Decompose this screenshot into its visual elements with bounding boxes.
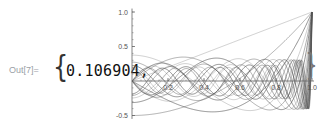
x-tick-label: 0.2 bbox=[163, 84, 173, 91]
x-tick-label: 0.4 bbox=[199, 84, 209, 91]
list-close-brace: } bbox=[306, 50, 317, 80]
y-tick-label: -0.5 bbox=[116, 112, 128, 119]
x-tick-label: 0.6 bbox=[235, 84, 245, 91]
legendre-plot: 0.20.40.60.81.0-0.50.51.0 bbox=[0, 0, 323, 125]
y-tick-label: 0.5 bbox=[118, 43, 128, 50]
plot-curves bbox=[132, 12, 312, 116]
x-tick-label: 0.8 bbox=[271, 84, 281, 91]
x-tick-label: 1.0 bbox=[307, 84, 317, 91]
y-tick-label: 1.0 bbox=[118, 9, 128, 16]
